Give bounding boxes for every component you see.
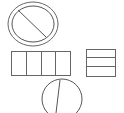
prohibited-circle-icon (8, 2, 58, 46)
slash-line (18, 10, 46, 37)
four-cell-grid (12, 52, 71, 76)
split-circle (42, 79, 82, 113)
circle-outline (42, 79, 82, 113)
split-line (56, 80, 60, 113)
diagram-canvas (0, 0, 124, 113)
three-row-box (87, 50, 116, 77)
box-outline (87, 50, 116, 77)
